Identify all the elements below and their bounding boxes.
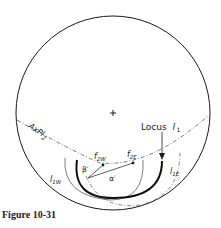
f2w-point [102, 164, 105, 167]
f2e-label: f2E [127, 150, 137, 160]
locus-label: Locus l′1 [141, 121, 180, 133]
locus-arrow-icon [159, 132, 165, 160]
figure-caption: Figure 10-31 [2, 209, 56, 220]
center-cross-icon [110, 110, 116, 116]
axial-plane-label: AxPl2 [25, 121, 49, 142]
f2w-label: f2W [94, 152, 106, 162]
locus-arc [76, 160, 162, 198]
alpha-label: α′ [109, 174, 116, 183]
stereonet-diagram: AxPl2 Locus l′1 f2W f2E l1W l1E α′ β′ [0, 0, 221, 228]
f2e-point [132, 162, 135, 165]
beta-label: β′ [82, 165, 89, 174]
l1w-label: l1W [50, 175, 62, 185]
axial-plane-great-circle [17, 114, 210, 163]
